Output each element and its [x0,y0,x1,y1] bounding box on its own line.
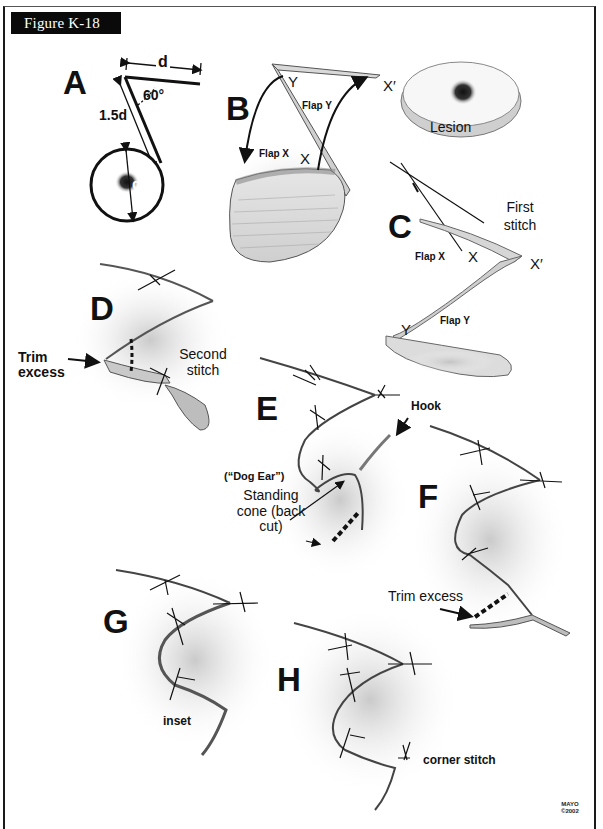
panel-letter-d: D [90,292,114,325]
inset-label: inset [163,715,191,728]
trim-excess-label-f: Trim excess [388,589,463,604]
corner-stitch-label: corner stitch [423,754,496,767]
trim-excess-label-d: Trim excess [18,350,78,381]
hook-label: Hook [411,400,441,413]
panel-letter-g: G [103,605,129,638]
point-y-b: Y [288,74,298,91]
angle-label: 60° [143,88,164,103]
dim-circle-label: d [132,176,141,193]
panel-letter-a: A [63,66,87,99]
point-x-c: X [468,249,478,266]
point-x-prime-c: X′ [530,256,543,273]
copyright-line-2: ©2002 [561,808,579,815]
flap-y-label-b: Flap Y [302,100,332,111]
dim-side-label: 1.5d [99,108,127,123]
flap-y-label-c: Flap Y [440,315,470,326]
panel-letter-f: F [418,480,438,513]
illustration-canvas [0,0,603,829]
panel-e-diagram [260,358,410,580]
panel-letter-b: B [226,92,250,125]
flap-x-label-c: Flap X [415,251,445,262]
first-stitch-label: First stitch [490,199,550,234]
copyright-mark: MAYO ©2002 [561,801,579,815]
panel-a-diagram [91,58,201,221]
lesion-label: Lesion [430,120,471,135]
dog-ear-label: (“Dog Ear”) [224,470,285,482]
panel-g-diagram [115,570,275,755]
panel-f-diagram [410,426,570,636]
standing-cone-label: Standing cone (back cut) [228,488,314,535]
copyright-line-1: MAYO [561,801,579,808]
point-x-prime-b: X′ [383,78,396,95]
flap-x-label-b: Flap X [259,148,289,159]
dim-d-top: d [156,53,170,71]
panel-c-diagram [386,162,522,377]
point-y-c: Y [401,322,411,339]
second-stitch-label: Second stitch [170,346,236,378]
point-x-b: X [300,151,310,168]
panel-letter-h: H [277,663,301,696]
panel-letter-e: E [256,392,278,425]
panel-letter-c: C [388,210,412,243]
panel-h-diagram [280,605,460,810]
